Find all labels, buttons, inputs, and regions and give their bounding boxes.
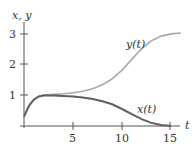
y-tick-label-1: 1 bbox=[9, 89, 16, 102]
y-tick-label-3: 3 bbox=[9, 28, 16, 41]
y-curve bbox=[24, 33, 181, 117]
y-curve-label: y(t) bbox=[125, 38, 145, 51]
x-curve-label: x(t) bbox=[137, 103, 156, 116]
y-tick-label-2: 2 bbox=[9, 58, 16, 71]
x-tick-label-5: 5 bbox=[69, 132, 76, 145]
y-axis-label: x, y bbox=[12, 9, 32, 22]
x-tick-label-15: 15 bbox=[163, 132, 177, 145]
x-tick-label-10: 10 bbox=[115, 132, 129, 145]
chart: 3 2 1 5 10 15 x, y t y(t) x(t) bbox=[0, 0, 195, 153]
x-axis-label: t bbox=[185, 119, 190, 132]
